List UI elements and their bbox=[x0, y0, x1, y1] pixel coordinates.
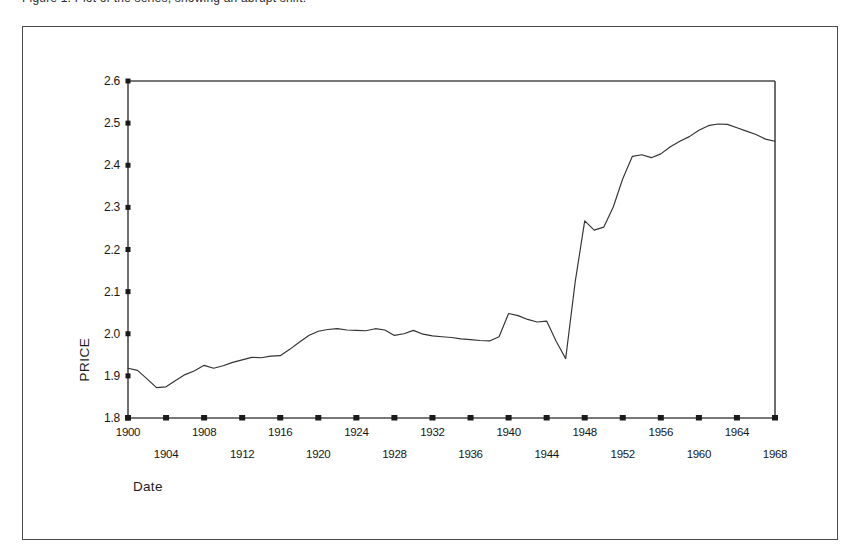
y-axis-tick-label: 1.9 bbox=[86, 369, 120, 383]
x-axis-tick-label: 1900 bbox=[105, 426, 151, 438]
x-axis-tick-label: 1956 bbox=[638, 426, 684, 438]
y-axis-tick-label: 2.2 bbox=[86, 243, 120, 257]
x-axis-tick-label: 1928 bbox=[371, 448, 417, 460]
y-axis-tick-label: 1.8 bbox=[86, 411, 120, 425]
y-axis-tick-label: 2.1 bbox=[86, 285, 120, 299]
x-axis-tick-label: 1968 bbox=[752, 448, 798, 460]
clipped-header-text: Figure 1. Plot of the series, showing an… bbox=[22, 0, 306, 5]
y-axis-tick-label: 2.6 bbox=[86, 74, 120, 88]
x-axis-tick-label: 1940 bbox=[486, 426, 532, 438]
x-axis-tick-label: 1948 bbox=[562, 426, 608, 438]
x-axis-title: Date bbox=[133, 479, 163, 494]
x-axis-tick-label: 1960 bbox=[676, 448, 722, 460]
x-axis-tick-label: 1912 bbox=[219, 448, 265, 460]
x-axis-tick-label: 1916 bbox=[257, 426, 303, 438]
clipped-header-strip: Figure 1. Plot of the series, showing an… bbox=[0, 0, 860, 14]
y-axis-tick-label: 2.5 bbox=[86, 116, 120, 130]
figure-border bbox=[22, 26, 838, 540]
x-axis-tick-label: 1936 bbox=[448, 448, 494, 460]
x-axis-tick-label: 1932 bbox=[409, 426, 455, 438]
x-axis-tick-label: 1904 bbox=[143, 448, 189, 460]
y-axis-tick-label: 2.3 bbox=[86, 200, 120, 214]
x-axis-tick-label: 1952 bbox=[600, 448, 646, 460]
x-axis-tick-label: 1964 bbox=[714, 426, 760, 438]
x-axis-tick-label: 1944 bbox=[524, 448, 570, 460]
y-axis-tick-label: 2.4 bbox=[86, 158, 120, 172]
y-axis-tick-label: 2.0 bbox=[86, 327, 120, 341]
x-axis-tick-label: 1908 bbox=[181, 426, 227, 438]
x-axis-tick-label: 1920 bbox=[295, 448, 341, 460]
chart-page: Figure 1. Plot of the series, showing an… bbox=[0, 0, 860, 559]
x-axis-tick-label: 1924 bbox=[333, 426, 379, 438]
